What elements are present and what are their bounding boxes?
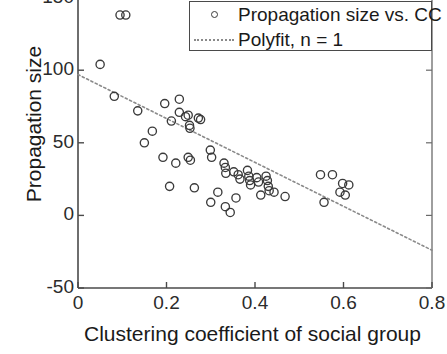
data-point [328,171,336,179]
data-point [320,198,328,206]
data-point [214,188,222,196]
data-point [184,111,192,119]
data-point [281,192,289,200]
data-point [96,60,104,68]
data-point [270,188,278,196]
chart-figure: 150100500-50 00.20.40.60.8 Propagation s… [0,0,447,354]
x-tick-label: 0.6 [314,292,374,314]
data-point [190,184,198,192]
data-point [257,191,265,199]
data-point [232,194,240,202]
data-point [226,208,234,216]
dotted-line-icon [190,39,238,41]
data-point [316,171,324,179]
data-point [207,198,215,206]
x-axis-label: Clustering coefficient of social group [58,322,447,346]
data-point [196,115,204,123]
legend-entry-polyfit: Polyfit, n = 1 [190,27,433,52]
chart-legend: Propagation size vs. CC Polyfit, n = 1 [189,1,432,51]
data-point [140,139,148,147]
x-tick-label: 0.2 [137,292,197,314]
data-point [243,166,251,174]
legend-entry-scatter: Propagation size vs. CC [190,2,433,27]
polyfit-line [78,75,432,251]
data-point [122,11,130,19]
circle-marker-icon [190,11,238,18]
data-point [134,107,142,115]
data-point [165,182,173,190]
y-axis-label: Propagation size [22,0,46,254]
data-point [172,159,180,167]
data-point [159,153,167,161]
legend-label-polyfit: Polyfit, n = 1 [238,30,343,49]
data-point [167,117,175,125]
x-tick-label: 0 [48,292,108,314]
data-point [175,95,183,103]
data-point [161,99,169,107]
data-point [148,127,156,135]
x-tick-label: 0.4 [225,292,285,314]
legend-label-scatter: Propagation size vs. CC [238,5,442,24]
data-point [222,169,230,177]
data-point [110,92,118,100]
x-tick-label: 0.8 [402,292,447,314]
